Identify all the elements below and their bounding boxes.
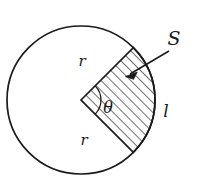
label-radius-upper: r xyxy=(78,52,86,70)
geometry-figure: r r θ S l xyxy=(0,0,198,188)
label-area-s: S xyxy=(167,27,180,49)
label-radius-lower: r xyxy=(80,131,88,149)
label-angle-theta: θ xyxy=(103,98,113,117)
label-arc-length-l: l xyxy=(163,101,168,121)
figure-canvas: r r θ S l xyxy=(0,0,198,188)
